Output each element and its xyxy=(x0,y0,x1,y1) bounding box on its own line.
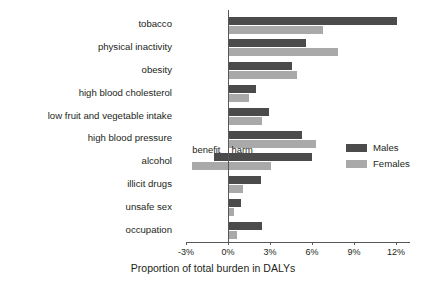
legend-swatch-icon xyxy=(346,160,367,168)
x-axis-tick xyxy=(228,242,229,245)
x-axis-tick-label: 0% xyxy=(221,247,234,257)
category-label: high blood pressure xyxy=(88,133,172,143)
legend-item[interactable]: Females xyxy=(346,157,410,170)
legend-swatch-icon xyxy=(346,144,367,152)
x-axis-tick-label: 6% xyxy=(305,247,318,257)
category-label: physical inactivity xyxy=(98,42,172,52)
chart-container: tobaccophysical inactivityobesityhigh bl… xyxy=(0,0,426,283)
annotation-harm: harm xyxy=(232,144,253,155)
bar-males xyxy=(228,62,292,70)
x-axis-tick xyxy=(270,242,271,245)
bar-males xyxy=(228,85,256,93)
annotation-benefit: benefit xyxy=(192,144,220,155)
bar-females xyxy=(228,231,237,239)
x-axis-line xyxy=(186,242,410,243)
bar-males xyxy=(228,39,306,47)
bar-males xyxy=(228,176,261,184)
bar-row xyxy=(186,82,410,105)
bar-females xyxy=(192,162,272,170)
bar-males xyxy=(228,17,397,25)
bar-females xyxy=(228,26,323,34)
y-axis-category-labels: tobaccophysical inactivityobesityhigh bl… xyxy=(0,14,176,242)
x-axis-title: Proportion of total burden in DALYs xyxy=(0,262,426,274)
legend-label: Males xyxy=(373,142,399,153)
bar-row xyxy=(186,105,410,128)
bar-row xyxy=(186,196,410,219)
bar-females xyxy=(228,185,243,193)
bar-rows xyxy=(186,14,410,242)
category-label: occupation xyxy=(126,225,172,235)
bar-males xyxy=(228,199,241,207)
bar-row xyxy=(186,14,410,37)
category-label: obesity xyxy=(142,65,172,75)
x-axis-tick xyxy=(354,242,355,245)
zero-axis-line xyxy=(228,10,229,242)
bar-females xyxy=(228,117,262,125)
bar-females xyxy=(228,71,297,79)
x-axis-tick xyxy=(396,242,397,245)
bar-males xyxy=(228,108,269,116)
bar-row xyxy=(186,174,410,197)
category-label: unsafe sex xyxy=(126,202,172,212)
legend-item[interactable]: Males xyxy=(346,141,410,154)
category-label: illicit drugs xyxy=(127,179,172,189)
bar-females xyxy=(228,94,249,102)
legend-label: Females xyxy=(373,158,410,169)
x-axis-tick-label: 12% xyxy=(387,247,405,257)
x-axis-tick-label: -3% xyxy=(178,247,194,257)
x-axis-tick xyxy=(312,242,313,245)
bar-males xyxy=(228,131,302,139)
bar-row xyxy=(186,219,410,242)
bar-row xyxy=(186,60,410,83)
category-label: alcohol xyxy=(142,156,172,166)
category-label: low fruit and vegetable intake xyxy=(48,111,172,121)
bar-row xyxy=(186,37,410,60)
legend: MalesFemales xyxy=(346,141,410,173)
x-axis-tick-label: 9% xyxy=(347,247,360,257)
x-axis-tick xyxy=(186,242,187,245)
bar-males xyxy=(228,222,262,230)
plot-area xyxy=(186,14,410,242)
bar-females xyxy=(228,48,338,56)
x-axis-tick-label: 3% xyxy=(263,247,276,257)
category-label: high blood cholesterol xyxy=(79,88,172,98)
category-label: tobacco xyxy=(138,19,172,29)
